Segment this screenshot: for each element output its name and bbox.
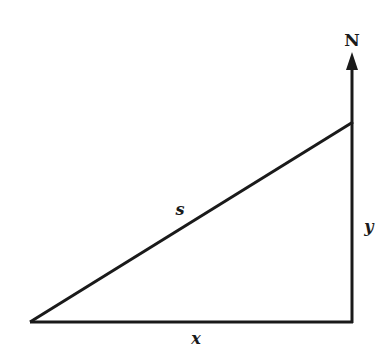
vertical-leg-label: y: [363, 217, 375, 236]
hypotenuse: [30, 122, 353, 322]
hypotenuse-label: s: [174, 200, 184, 219]
north-label: N: [344, 30, 360, 50]
horizontal-leg-label: x: [190, 329, 201, 348]
north-arrow-head-icon: [346, 52, 358, 70]
triangle-diagram: N s y x: [0, 0, 389, 361]
